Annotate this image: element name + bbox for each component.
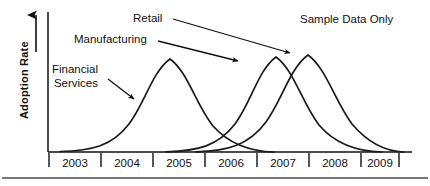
sample-data-note: Sample Data Only (300, 13, 393, 26)
callout-label-financial-services: FinancialServices (52, 63, 98, 90)
x-tick-label-2003: 2003 (53, 157, 97, 169)
x-tick-label-2007: 2007 (261, 157, 305, 169)
x-tick-label-2005: 2005 (157, 157, 201, 169)
x-tick-label-2004: 2004 (105, 157, 149, 169)
chart-figure: Adoption Rate Retail Manufacturing Finan… (0, 0, 430, 186)
x-tick-label-2008: 2008 (313, 157, 357, 169)
y-axis-title: Adoption Rate (18, 20, 30, 140)
callout-label-financial-line1: Financial (52, 63, 98, 75)
callout-label-financial-line2: Services (54, 77, 98, 89)
x-tick-label-2006: 2006 (209, 157, 253, 169)
leader-line-retail (173, 19, 290, 53)
leader-line-financial-services (108, 79, 134, 99)
curve-manufacturing (166, 57, 382, 152)
x-tick-label-2009: 2009 (358, 157, 402, 169)
callout-label-retail: Retail (133, 12, 162, 25)
callout-label-manufacturing: Manufacturing (74, 33, 147, 46)
